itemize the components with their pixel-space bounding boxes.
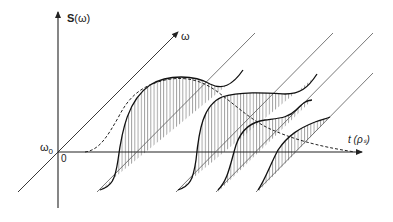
hatched-areas	[97, 70, 330, 192]
baseline-2	[176, 33, 333, 192]
t-axis-label: t (ρₛ)	[348, 134, 370, 145]
s-axis-label: S(ω)	[67, 12, 90, 24]
spectrum-diagram	[0, 0, 393, 222]
omega-axis-label: ω	[181, 30, 190, 42]
omega0-label: ω0	[40, 141, 53, 156]
origin-zero-label: 0	[61, 153, 67, 164]
